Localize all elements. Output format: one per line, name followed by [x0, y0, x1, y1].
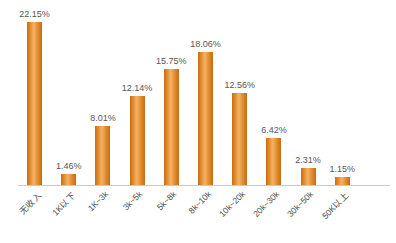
bar — [198, 52, 213, 185]
bar-value-label: 1.46% — [47, 161, 91, 171]
bar — [266, 138, 281, 185]
bar-value-label: 18.06% — [184, 39, 228, 49]
bar-value-label: 12.56% — [218, 80, 262, 90]
bar — [61, 174, 76, 185]
bar — [130, 96, 145, 185]
bar-value-label: 22.15% — [13, 9, 57, 19]
bar — [95, 126, 110, 185]
bar — [335, 177, 350, 185]
bar — [232, 93, 247, 185]
bar-chart: 22.15%1.46%8.01%12.14%15.75%18.06%12.56%… — [0, 0, 396, 243]
bar-value-label: 1.15% — [320, 164, 364, 174]
bar-value-label: 8.01% — [81, 113, 125, 123]
plot-area: 22.15%1.46%8.01%12.14%15.75%18.06%12.56%… — [0, 0, 396, 243]
bar-value-label: 12.14% — [115, 83, 159, 93]
bar-value-label: 15.75% — [149, 56, 193, 66]
bar-value-label: 6.42% — [252, 125, 296, 135]
bar — [27, 22, 42, 185]
bar — [301, 168, 316, 185]
bar — [164, 69, 179, 185]
x-axis-line — [18, 185, 390, 186]
